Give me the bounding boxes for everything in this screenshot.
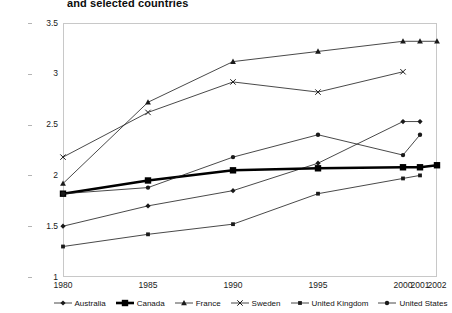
series-canada (60, 162, 440, 197)
y-tick-label: 2.5 (32, 120, 58, 128)
legend-item-australia[interactable]: Australia (53, 298, 106, 308)
x-tick-label: 1995 (298, 281, 338, 290)
legend-label: Sweden (252, 299, 281, 308)
x-tick-label: 1985 (128, 281, 168, 290)
y-tick-mark (28, 175, 32, 176)
y-tick-label: 1.5 (32, 222, 58, 230)
legend-label: United States (399, 299, 447, 308)
y-axis: 11.522.533.5 (28, 0, 58, 313)
x-tick-label: 1980 (43, 281, 83, 290)
legend-item-canada[interactable]: Canada (115, 298, 165, 308)
y-tick-mark (28, 23, 32, 24)
y-tick-label: 3.5 (32, 19, 58, 27)
chart-title: and selected countries (67, 0, 188, 9)
y-tick-mark (28, 226, 32, 227)
chart-legend: AustraliaCanadaFranceSwedenUnited Kingdo… (63, 296, 437, 310)
series-sweden (60, 69, 405, 160)
legend-item-sweden[interactable]: Sweden (230, 298, 281, 308)
legend-marker-square-small-icon (290, 298, 310, 308)
legend-marker-triangle-icon (174, 298, 194, 308)
legend-marker-diamond-icon (53, 298, 73, 308)
legend-label: Canada (137, 299, 165, 308)
series-australia (60, 119, 422, 229)
legend-item-united-kingdom[interactable]: United Kingdom (290, 298, 369, 308)
y-tick-mark (28, 277, 32, 278)
plot-lines (63, 23, 437, 277)
legend-marker-x-icon (230, 298, 250, 308)
legend-marker-square-bold-icon (115, 298, 135, 308)
legend-marker-circle-icon (377, 298, 397, 308)
legend-label: United Kingdom (312, 299, 369, 308)
series-france (60, 38, 440, 186)
legend-label: Australia (75, 299, 106, 308)
legend-label: France (196, 299, 221, 308)
x-tick-label: 1990 (213, 281, 253, 290)
y-tick-mark (28, 74, 32, 75)
x-tick-label: 2002 (417, 281, 452, 290)
y-tick-label: 2 (32, 171, 58, 179)
y-tick-label: 3 (32, 69, 58, 77)
y-tick-mark (28, 125, 32, 126)
legend-item-france[interactable]: France (174, 298, 221, 308)
legend-item-united-states[interactable]: United States (377, 298, 447, 308)
